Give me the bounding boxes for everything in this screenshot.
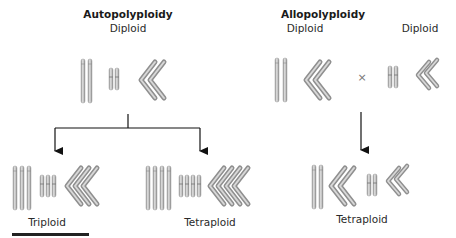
allo-tetraploid-chromosomes xyxy=(312,165,407,209)
triploid-chromosomes xyxy=(13,166,97,210)
polyploidy-diagram xyxy=(0,0,456,238)
allo-diploid-left-chromosomes xyxy=(275,58,329,102)
auto-tetraploid-chromosomes xyxy=(146,166,248,210)
auto-diploid-chromosomes xyxy=(81,59,164,103)
allo-diploid-right-chromosomes xyxy=(388,60,437,88)
auto-branch-arrows xyxy=(55,114,200,151)
